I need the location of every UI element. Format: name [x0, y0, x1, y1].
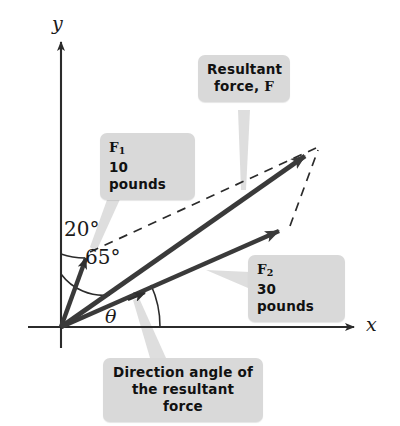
callout-resultant-force: Resultant force, F	[198, 55, 290, 102]
leader-resultant	[238, 110, 250, 190]
angle-20-label: 20°	[64, 217, 99, 241]
callout-f1-symbol: F	[109, 139, 119, 155]
callout-f1-magnitude: 10 pounds	[109, 159, 186, 193]
arc-65-degrees	[61, 274, 110, 295]
callout-direction-angle: Direction angle of the resultant force	[103, 358, 263, 422]
callout-f1-subscript: 1	[119, 145, 126, 156]
callout-f2-subscript: 2	[267, 267, 274, 278]
x-axis-label: x	[366, 313, 377, 335]
callout-f2: F2 30 pounds	[248, 255, 345, 322]
callout-resultant-line1: Resultant	[207, 61, 282, 77]
callout-resultant-symbol: F	[264, 78, 274, 94]
callout-resultant-line2-prefix: force,	[214, 78, 264, 94]
callout-f1-symbol-wrap: F1	[109, 139, 126, 155]
vector-diagram-figure: y x 20° 65° θ Resultant force, F F1 10 p…	[0, 0, 400, 426]
callout-direction-line2: the resultant force	[112, 381, 254, 415]
arc-20-degrees	[61, 254, 85, 258]
callout-direction-line1: Direction angle of	[113, 364, 253, 380]
angle-65-label: 65°	[85, 245, 120, 269]
callout-f2-magnitude: 30 pounds	[257, 281, 336, 315]
callout-f2-symbol-wrap: F2	[257, 261, 274, 277]
callout-resultant-line2: force, F	[207, 78, 281, 95]
leader-f2	[206, 262, 250, 288]
arc-theta	[151, 285, 160, 327]
angle-theta-label: θ	[105, 305, 116, 327]
y-axis-label: y	[52, 12, 63, 34]
callout-f2-symbol: F	[257, 261, 267, 277]
callout-f1: F1 10 pounds	[100, 133, 195, 200]
